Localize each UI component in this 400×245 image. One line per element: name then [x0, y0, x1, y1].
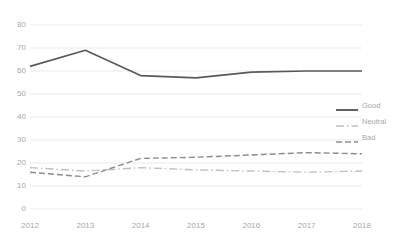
chart-legend: GoodNeutralBad — [336, 98, 398, 146]
legend-swatch-good-icon — [336, 101, 358, 111]
x-axis-tick-label: 2016 — [242, 222, 260, 230]
x-axis-tick-label: 2017 — [298, 222, 316, 230]
legend-item-neutral[interactable]: Neutral — [336, 114, 398, 130]
legend-label: Neutral — [362, 118, 386, 126]
x-axis-tick-label: 2014 — [132, 222, 150, 230]
x-axis-tick-label: 2013 — [76, 222, 94, 230]
legend-item-good[interactable]: Good — [336, 98, 398, 114]
legend-label: Good — [362, 102, 380, 110]
legend-label: Bad — [362, 134, 375, 142]
x-axis-tick-label: 2015 — [187, 222, 205, 230]
x-axis-tick-label: 2012 — [21, 222, 39, 230]
line-chart: 01020304050607080 2012201320142015201620… — [0, 0, 400, 245]
x-axis-tick-label: 2018 — [353, 222, 371, 230]
legend-swatch-bad-icon — [336, 133, 358, 143]
legend-item-bad[interactable]: Bad — [336, 130, 398, 146]
legend-swatch-neutral-icon — [336, 117, 358, 127]
